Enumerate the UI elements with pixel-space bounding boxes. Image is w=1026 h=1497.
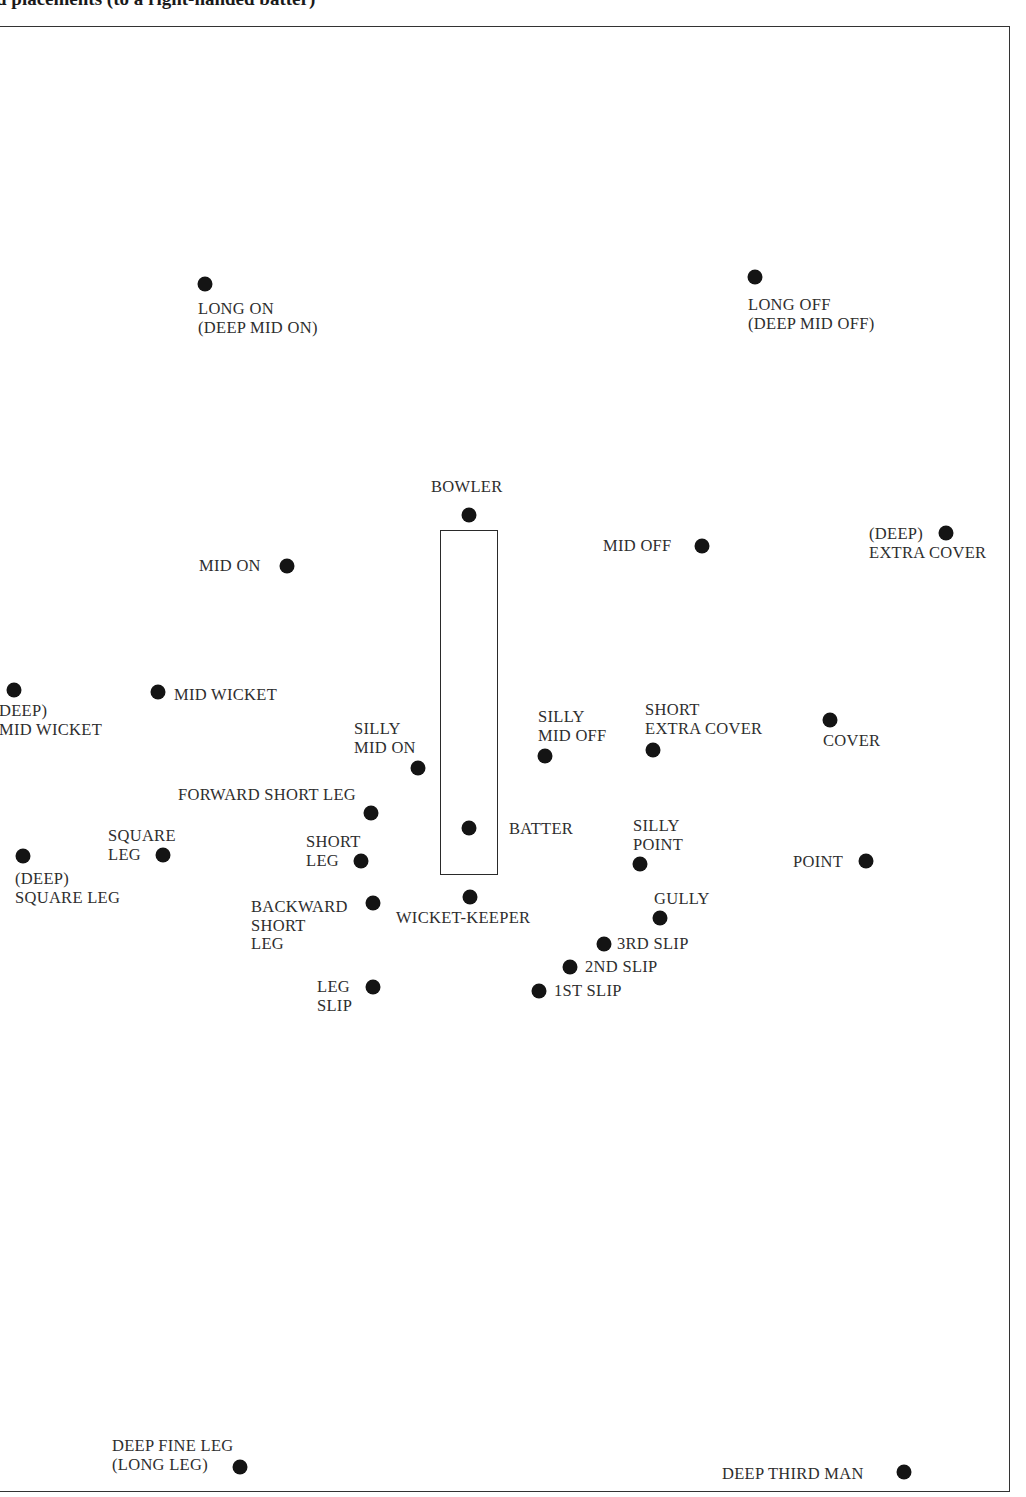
label-mid-off: MID OFF <box>603 537 672 556</box>
label-2nd-slip: 2ND SLIP <box>585 958 658 977</box>
fielder-dot-1st-slip <box>532 984 547 999</box>
label-short-leg: SHORT LEG <box>306 833 361 870</box>
fielder-dot-bowler <box>462 508 477 523</box>
label-deep-mid-wicket: DEEP) MID WICKET <box>0 702 102 739</box>
label-silly-mid-off: SILLY MID OFF <box>538 708 607 745</box>
label-point: POINT <box>793 853 843 872</box>
label-deep-third-man: DEEP THIRD MAN <box>722 1465 864 1484</box>
label-gully: GULLY <box>654 890 710 909</box>
fielder-dot-cover <box>823 713 838 728</box>
fielder-dot-short-leg <box>354 854 369 869</box>
label-cover: COVER <box>823 732 880 751</box>
label-silly-point: SILLY POINT <box>633 817 683 854</box>
label-leg-slip: LEG SLIP <box>317 978 352 1015</box>
fielder-dot-long-on <box>198 277 213 292</box>
label-mid-on: MID ON <box>199 557 261 576</box>
fielder-dot-2nd-slip <box>563 960 578 975</box>
field-frame <box>0 26 1010 1492</box>
fielder-dot-mid-off <box>695 539 710 554</box>
figure-title: d placements (to a right-handed batter) <box>0 0 315 10</box>
fielder-dot-deep-fine-leg <box>233 1460 248 1475</box>
label-mid-wicket: MID WICKET <box>174 686 277 705</box>
fielder-dot-forward-short-leg <box>364 806 379 821</box>
fielder-dot-short-extra-cover <box>646 743 661 758</box>
label-forward-short-leg: FORWARD SHORT LEG <box>178 786 356 805</box>
label-deep-extra-cover: (DEEP) EXTRA COVER <box>869 525 986 562</box>
label-deep-square-leg: (DEEP) SQUARE LEG <box>15 870 120 907</box>
fielder-dot-silly-point <box>633 857 648 872</box>
fielder-dot-point <box>859 854 874 869</box>
fielder-dot-silly-mid-on <box>411 761 426 776</box>
fielder-dot-gully <box>653 911 668 926</box>
fielder-dot-mid-on <box>280 559 295 574</box>
label-silly-mid-on: SILLY MID ON <box>354 720 416 757</box>
fielder-dot-deep-mid-wicket <box>7 683 22 698</box>
label-bowler: BOWLER <box>431 478 502 497</box>
fielder-dot-backward-short-leg <box>366 896 381 911</box>
label-deep-fine-leg: DEEP FINE LEG (LONG LEG) <box>112 1437 234 1474</box>
label-wicket-keeper: WICKET-KEEPER <box>396 909 530 928</box>
label-backward-short-leg: BACKWARD SHORT LEG <box>251 898 348 954</box>
label-3rd-slip: 3RD SLIP <box>617 935 689 954</box>
wicket-keeper-dot <box>463 890 478 905</box>
label-batter: BATTER <box>509 820 573 839</box>
fielder-dot-3rd-slip <box>597 937 612 952</box>
label-long-on: LONG ON (DEEP MID ON) <box>198 300 318 337</box>
fielder-dot-mid-wicket <box>151 685 166 700</box>
fielder-dot-leg-slip <box>366 980 381 995</box>
label-short-extra-cover: SHORT EXTRA COVER <box>645 701 762 738</box>
batter-dot <box>462 821 477 836</box>
fielder-dot-silly-mid-off <box>538 749 553 764</box>
label-1st-slip: 1ST SLIP <box>554 982 622 1001</box>
fielder-dot-square-leg <box>156 848 171 863</box>
fielder-dot-deep-extra-cover <box>939 526 954 541</box>
fielder-dot-deep-third-man <box>897 1465 912 1480</box>
fielder-dot-long-off <box>748 270 763 285</box>
fielder-dot-deep-square-leg <box>16 849 31 864</box>
label-long-off: LONG OFF (DEEP MID OFF) <box>748 296 874 333</box>
